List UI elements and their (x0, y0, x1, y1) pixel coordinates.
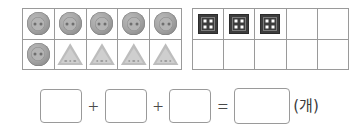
button-holes-icon (34, 22, 43, 25)
button-holes-icon (266, 19, 275, 28)
square-button-token (260, 14, 280, 34)
button-holes-icon (161, 22, 170, 25)
round-button-token (27, 12, 50, 35)
grid-cell (150, 40, 182, 71)
grid-cell (23, 9, 55, 40)
left-token-grid (22, 8, 182, 70)
button-holes-icon (34, 53, 43, 56)
answer-box-addend-1[interactable] (40, 89, 82, 123)
grid-cell (87, 40, 119, 71)
grid-cell-empty (224, 40, 255, 71)
grid-cell-empty (193, 40, 224, 71)
round-button-token (27, 43, 50, 66)
button-holes-icon (128, 60, 140, 63)
equation-row: + + = (개) (40, 84, 330, 128)
grid-cell (255, 9, 286, 40)
grid-cell-empty (287, 9, 318, 40)
button-holes-icon (129, 22, 138, 25)
grid-cell (87, 9, 119, 40)
grid-cell (23, 40, 55, 71)
answer-box-sum[interactable] (234, 88, 290, 124)
button-holes-icon (66, 22, 75, 25)
triangle-button-token (153, 43, 179, 65)
grid-cell (55, 40, 87, 71)
button-holes-icon (64, 60, 76, 63)
grid-cell (193, 9, 224, 40)
button-holes-icon (97, 22, 106, 25)
equals-operator: = (211, 97, 234, 116)
button-holes-icon (235, 19, 244, 28)
grid-cell-empty (255, 40, 286, 71)
round-button-token (90, 12, 113, 35)
square-button-token (229, 14, 249, 34)
right-token-grid (192, 8, 349, 70)
square-button-token (198, 14, 218, 34)
round-button-token (154, 12, 177, 35)
plus-operator: + (147, 97, 170, 116)
triangle-button-token (57, 43, 83, 65)
answer-box-addend-2[interactable] (105, 89, 147, 123)
plus-operator: + (82, 97, 105, 116)
round-button-token (122, 12, 145, 35)
unit-label: (개) (290, 99, 319, 114)
triangle-button-token (121, 43, 147, 65)
grid-cell-empty (287, 40, 318, 71)
round-button-token (59, 12, 82, 35)
triangle-button-token (89, 43, 115, 65)
grid-cell (224, 9, 255, 40)
grid-cell (118, 40, 150, 71)
button-holes-icon (96, 60, 108, 63)
button-holes-icon (160, 60, 172, 63)
button-holes-icon (204, 19, 213, 28)
grid-cell (118, 9, 150, 40)
answer-box-addend-3[interactable] (169, 89, 211, 123)
grid-cell (150, 9, 182, 40)
grid-cell-empty (318, 9, 349, 40)
grid-cell (55, 9, 87, 40)
grid-cell-empty (318, 40, 349, 71)
